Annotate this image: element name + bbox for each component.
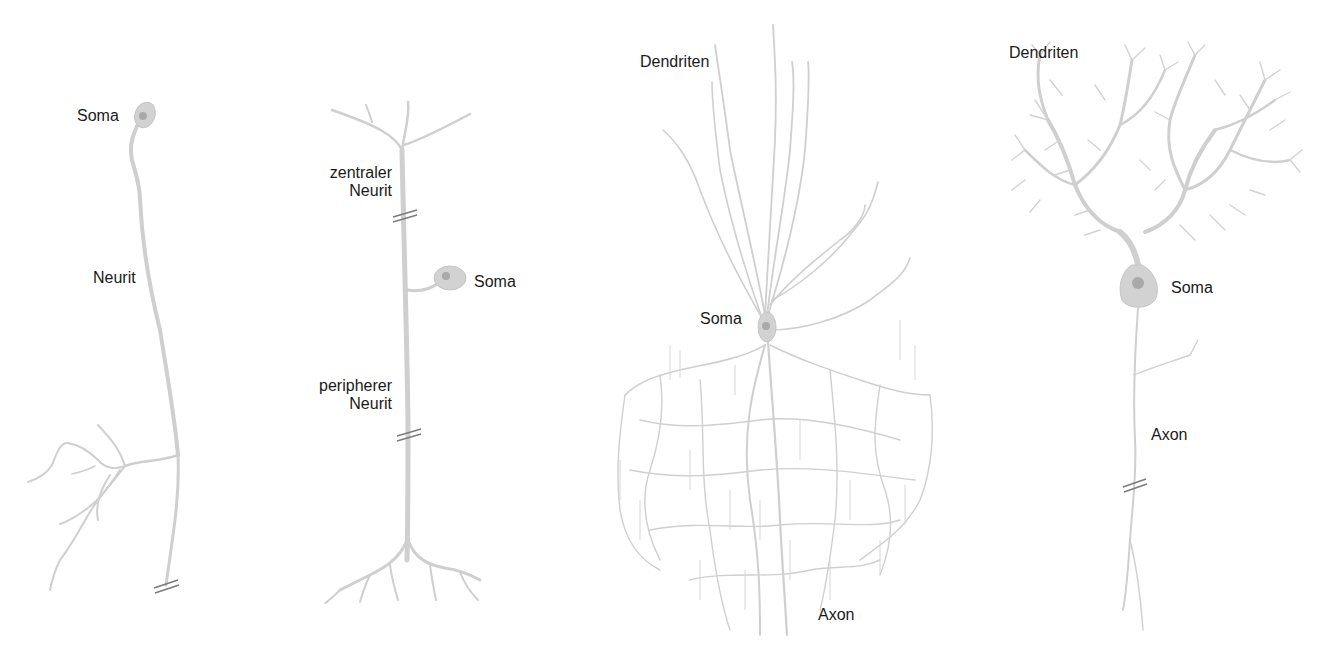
label-neurit-unipolar: Neurit [93, 269, 136, 287]
label-dendrites-pyramidal: Dendriten [640, 53, 709, 71]
pyramidal-neuron [618, 25, 932, 635]
label-peripheral-neurit: peripherer Neurit [296, 377, 392, 413]
label-dendrites-purkinje: Dendriten [1009, 44, 1078, 62]
neuron-illustrations [0, 0, 1329, 652]
label-soma-unipolar: Soma [77, 107, 119, 125]
unipolar-neuron [28, 99, 179, 593]
purkinje-neuron [1012, 42, 1302, 630]
label-central-line2: Neurit [300, 182, 392, 200]
label-axon-purkinje: Axon [1151, 426, 1187, 444]
label-peripheral-line1: peripherer [296, 377, 392, 395]
label-peripheral-line2: Neurit [296, 395, 392, 413]
neuron-types-figure: Soma Neurit zentraler Neurit Soma periph… [0, 0, 1329, 652]
label-central-neurit: zentraler Neurit [300, 164, 392, 200]
label-central-line1: zentraler [300, 164, 392, 182]
label-axon-pyramidal: Axon [818, 606, 854, 624]
label-soma-pyramidal: Soma [700, 310, 742, 328]
label-soma-pseudounipolar: Soma [474, 273, 516, 291]
label-soma-purkinje: Soma [1171, 279, 1213, 297]
